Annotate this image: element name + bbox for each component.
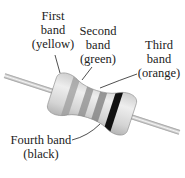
second-band-leader [82, 67, 92, 80]
third-band-label: Third band (orange) [134, 38, 184, 80]
left-lead [4, 73, 59, 95]
fourth-band-leader [72, 124, 100, 140]
first-band-leader [55, 55, 60, 73]
second-band-label: Second band (green) [70, 24, 126, 66]
right-lead [125, 113, 180, 135]
fourth-band-label: Fourth band (black) [6, 133, 76, 161]
third-band-leader [100, 74, 137, 88]
